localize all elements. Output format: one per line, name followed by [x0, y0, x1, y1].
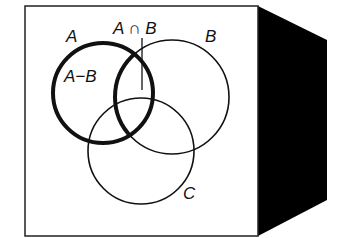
- box-side-panel: [258, 6, 327, 236]
- label-difference: A−B: [63, 67, 97, 86]
- label-set-b: B: [205, 27, 216, 46]
- venn-diagram: A A ∩ B B A−B C: [0, 0, 341, 238]
- label-intersection: A ∩ B: [112, 19, 157, 38]
- label-set-a: A: [65, 27, 77, 46]
- label-set-c: C: [183, 184, 196, 203]
